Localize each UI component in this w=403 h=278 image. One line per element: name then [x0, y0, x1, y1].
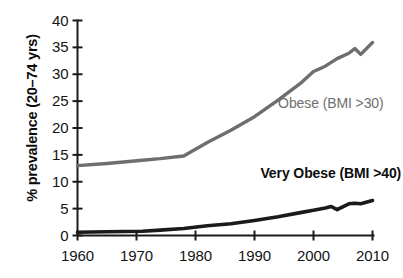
- x-tick-label: 1970: [107, 247, 167, 264]
- x-tick-label: 1980: [166, 247, 226, 264]
- series-line-very-obese: [78, 201, 373, 233]
- x-tick-label: 1990: [225, 247, 285, 264]
- series-label-very-obese: Very Obese (BMI >40): [260, 165, 401, 181]
- y-tick-label: 15: [25, 146, 69, 163]
- y-tick-label: 10: [25, 173, 69, 190]
- y-tick-label: 0: [25, 227, 69, 244]
- chart-series-group: [78, 43, 373, 233]
- y-tick-label: 40: [25, 12, 69, 29]
- y-tick-label: 5: [25, 200, 69, 217]
- x-tick-label: 2010: [343, 247, 403, 264]
- y-tick-label: 30: [25, 65, 69, 82]
- x-tick-label: 1960: [48, 247, 108, 264]
- series-label-obese: Obese (BMI >30): [278, 95, 384, 111]
- obesity-prevalence-chart: % prevalence (20–74 yrs) 051015202530354…: [0, 0, 403, 278]
- x-tick-label: 2000: [284, 247, 344, 264]
- y-tick-label: 20: [25, 119, 69, 136]
- y-tick-label: 25: [25, 92, 69, 109]
- y-tick-label: 35: [25, 38, 69, 55]
